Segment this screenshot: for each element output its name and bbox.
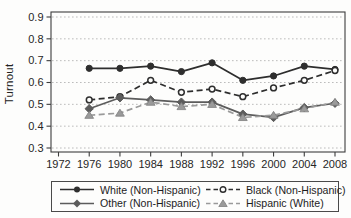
- x-tick-label: 1980: [108, 158, 132, 170]
- x-tick-label: 1996: [231, 158, 255, 170]
- legend-sample-other: [59, 197, 95, 210]
- marker-circle-filled: [148, 63, 154, 69]
- legend-label-hispanic: Hispanic (White): [246, 197, 324, 209]
- y-tick-label: 0.6: [28, 76, 43, 88]
- y-tick-label: 0.9: [28, 11, 43, 23]
- x-tick-label: 1992: [200, 158, 224, 170]
- marker-circle-open: [209, 86, 215, 92]
- y-tick-label: 0.5: [28, 98, 43, 110]
- marker-circle-open: [271, 85, 277, 91]
- y-tick-label: 0.4: [28, 120, 43, 132]
- y-tick-label: 0.7: [28, 54, 43, 66]
- x-tick-label: 2004: [292, 158, 316, 170]
- marker-circle-filled: [209, 60, 215, 66]
- marker-circle-filled: [86, 65, 92, 71]
- legend-sample-white: [59, 183, 95, 196]
- marker-circle-open: [86, 97, 92, 103]
- x-tick-label: 1988: [169, 158, 193, 170]
- legend: White (Non-Hispanic) Black (Non-Hispanic…: [51, 181, 339, 212]
- marker-circle-filled: [270, 73, 276, 79]
- legend-item-black: Black (Non-Hispanic): [198, 183, 346, 196]
- marker-circle-filled: [240, 77, 246, 83]
- y-axis-title: Turnout: [3, 14, 17, 154]
- x-tick-label: 2000: [261, 158, 285, 170]
- marker-circle-open: [240, 94, 246, 100]
- legend-sample-black: [205, 183, 241, 196]
- series-markers-3: [85, 98, 340, 120]
- y-tick-label: 0.8: [28, 33, 43, 45]
- turnout-figure: 0.30.40.50.60.70.80.91972197619801984198…: [0, 0, 351, 218]
- marker-circle-open: [332, 68, 338, 74]
- marker-circle-open: [148, 77, 154, 83]
- series-markers-0: [86, 60, 338, 84]
- x-tick-label: 1972: [46, 158, 70, 170]
- x-tick-label: 1976: [77, 158, 101, 170]
- x-tick-label: 1984: [138, 158, 162, 170]
- legend-label-white: White (Non-Hispanic): [100, 184, 201, 196]
- y-tick-label: 0.3: [28, 142, 43, 154]
- marker-circle-open: [301, 77, 307, 83]
- series-1: [89, 70, 335, 99]
- series-line: [89, 70, 335, 99]
- marker-circle-filled: [301, 63, 307, 69]
- marker-circle-filled: [117, 65, 123, 71]
- legend-item-white: White (Non-Hispanic): [52, 183, 198, 196]
- legend-item-other: Other (Non-Hispanic): [52, 197, 198, 210]
- legend-label-other: Other (Non-Hispanic): [100, 197, 200, 209]
- legend-label-black: Black (Non-Hispanic): [246, 184, 346, 196]
- marker-circle-filled: [178, 68, 184, 74]
- legend-item-hispanic: Hispanic (White): [198, 197, 346, 210]
- legend-sample-hispanic: [205, 197, 241, 210]
- x-tick-label: 2008: [323, 158, 347, 170]
- marker-circle-open: [178, 89, 184, 95]
